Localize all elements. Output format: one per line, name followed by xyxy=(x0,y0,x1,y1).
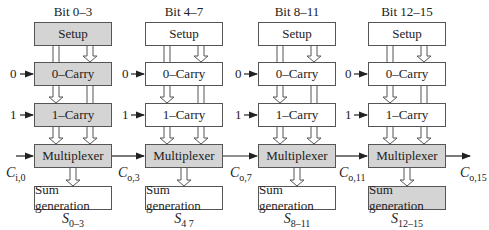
setup-label: Setup xyxy=(392,26,422,42)
multiplexer-block-2: Multiplexer xyxy=(258,144,336,168)
carry-out-label-15: Co,15 xyxy=(460,165,487,183)
multiplexer-label: Multiplexer xyxy=(42,148,103,164)
one-carry-label: 1–Carry xyxy=(276,107,319,123)
zero-input-label-1: 0 xyxy=(122,66,129,82)
one-input-label-3: 1 xyxy=(345,107,352,123)
zero-carry-block-1: 0–Carry xyxy=(145,62,223,86)
setup-block-3: Setup xyxy=(368,22,446,46)
setup-label: Setup xyxy=(169,26,199,42)
sum-generation-label: Sum generation xyxy=(146,182,222,214)
carry-out-label-3: Co,3 xyxy=(118,165,140,183)
setup-block-0: Setup xyxy=(34,22,112,46)
one-carry-label: 1–Carry xyxy=(163,107,206,123)
sum-output-label-0: S0–3 xyxy=(34,211,112,229)
sum-output-label-3: S12–15 xyxy=(368,211,446,229)
setup-block-2: Setup xyxy=(258,22,336,46)
one-carry-label: 1–Carry xyxy=(52,107,95,123)
column-title-bit-0-3: Bit 0–3 xyxy=(34,4,112,20)
sum-generation-block-3: Sum generation xyxy=(368,186,446,210)
multiplexer-block-0: Multiplexer xyxy=(34,144,112,168)
sum-generation-block-2: Sum generation xyxy=(258,186,336,210)
zero-input-label-0: 0 xyxy=(10,66,17,82)
zero-carry-label: 0–Carry xyxy=(52,66,95,82)
sum-generation-label: Sum generation xyxy=(259,182,335,214)
column-title-bit-12-15: Bit 12–15 xyxy=(368,4,446,20)
zero-carry-block-2: 0–Carry xyxy=(258,62,336,86)
setup-label: Setup xyxy=(58,26,88,42)
one-carry-block-3: 1–Carry xyxy=(368,103,446,127)
zero-carry-block-0: 0–Carry xyxy=(34,62,112,86)
setup-block-1: Setup xyxy=(145,22,223,46)
multiplexer-block-3: Multiplexer xyxy=(368,144,446,168)
multiplexer-block-1: Multiplexer xyxy=(145,144,223,168)
one-input-label-1: 1 xyxy=(122,107,129,123)
carry-in-label: Ci,0 xyxy=(6,165,26,183)
multiplexer-label: Multiplexer xyxy=(266,148,327,164)
sum-output-label-2: S8–11 xyxy=(258,211,336,229)
multiplexer-label: Multiplexer xyxy=(376,148,437,164)
one-carry-block-0: 1–Carry xyxy=(34,103,112,127)
one-carry-block-1: 1–Carry xyxy=(145,103,223,127)
carry-out-label-11: Co,11 xyxy=(339,165,365,183)
one-carry-label: 1–Carry xyxy=(386,107,429,123)
carry-select-adder-diagram: Bit 0–3 Setup 0–Carry 1–Carry Multiplexe… xyxy=(0,0,489,230)
one-carry-block-2: 1–Carry xyxy=(258,103,336,127)
zero-carry-label: 0–Carry xyxy=(386,66,429,82)
multiplexer-label: Multiplexer xyxy=(153,148,214,164)
column-title-bit-4-7: Bit 4–7 xyxy=(145,4,223,20)
zero-input-label-3: 0 xyxy=(345,66,352,82)
zero-carry-label: 0–Carry xyxy=(163,66,206,82)
carry-out-label-7: Co,7 xyxy=(230,165,252,183)
sum-generation-label: Sum generation xyxy=(35,182,111,214)
one-input-label-2: 1 xyxy=(235,107,242,123)
zero-carry-label: 0–Carry xyxy=(276,66,319,82)
sum-generation-label: Sum generation xyxy=(369,182,445,214)
zero-carry-block-3: 0–Carry xyxy=(368,62,446,86)
zero-input-label-2: 0 xyxy=(235,66,242,82)
setup-label: Setup xyxy=(282,26,312,42)
column-title-bit-8-11: Bit 8–11 xyxy=(258,4,336,20)
sum-generation-block-1: Sum generation xyxy=(145,186,223,210)
sum-output-label-1: S4 7 xyxy=(145,211,223,229)
one-input-label-0: 1 xyxy=(10,107,17,123)
sum-generation-block-0: Sum generation xyxy=(34,186,112,210)
